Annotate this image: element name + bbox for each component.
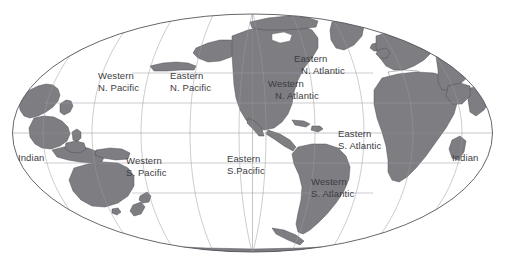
land-asia-main [432, 24, 492, 90]
world-map-graphic [0, 0, 506, 265]
land-hudson-bay-island [272, 32, 292, 43]
land-siberia-far [468, 17, 498, 32]
land-scandinavia [398, 22, 430, 37]
world-map-figure: Western N. Pacific Eastern N. Pacific Ea… [0, 0, 506, 265]
